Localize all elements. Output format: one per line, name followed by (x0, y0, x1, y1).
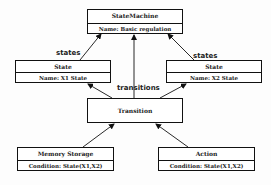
node-state-x2[interactable]: State Name: X2 State (166, 60, 262, 83)
node-state-x1-attribute: Name: X1 State (16, 72, 110, 82)
node-memory-storage-title: Memory Storage (18, 148, 113, 160)
node-memory-storage[interactable]: Memory Storage Condition: State(X1,X2) (17, 147, 114, 171)
node-action-attribute: Condition: State(X1,X2) (159, 160, 254, 170)
edge-state-left-to-statemachine (80, 34, 101, 60)
node-action-title: Action (159, 148, 254, 160)
edge-memory-storage-to-transition (83, 124, 114, 147)
node-statemachine[interactable]: StateMachine Name: Basic regulation (87, 9, 183, 34)
node-state-x2-attribute: Name: X2 State (167, 72, 261, 82)
edge-label-transitions: transitions (117, 84, 160, 92)
node-action[interactable]: Action Condition: State(X1,X2) (158, 147, 255, 171)
edge-transition-to-state-right (160, 84, 186, 98)
edge-label-states-left: states (56, 49, 81, 57)
edge-state-right-to-statemachine (168, 34, 194, 60)
edge-label-states-right: states (193, 52, 218, 60)
node-memory-storage-attribute: Condition: State(X1,X2) (18, 160, 113, 170)
diagram-canvas: StateMachine Name: Basic regulation Stat… (0, 0, 271, 185)
node-state-x1[interactable]: State Name: X1 State (15, 60, 111, 83)
edge-action-to-transition (156, 124, 188, 147)
node-transition-title: Transition (88, 99, 182, 122)
node-state-x2-title: State (167, 61, 261, 72)
node-statemachine-attribute: Name: Basic regulation (88, 23, 182, 33)
edge-transition-to-state-left (88, 84, 112, 98)
node-statemachine-title: StateMachine (88, 10, 182, 23)
node-state-x1-title: State (16, 61, 110, 72)
node-transition[interactable]: Transition (87, 98, 183, 123)
